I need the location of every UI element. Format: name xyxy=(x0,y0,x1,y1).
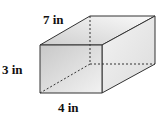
width-label: 4 in xyxy=(58,100,79,115)
box-diagram: 7 in 3 in 4 in xyxy=(0,0,167,117)
height-label: 3 in xyxy=(2,62,23,77)
depth-label: 7 in xyxy=(43,12,64,27)
front-face xyxy=(40,45,102,93)
